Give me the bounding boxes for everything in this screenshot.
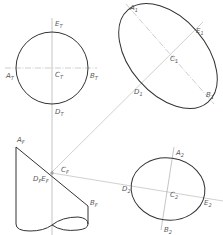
projection-diagram: ET AT CT BT DT A1 E1 C1 D1 B1 AF CF DFEF… [0,0,223,235]
label-a-f: AF [16,136,25,145]
label-c-1: C1 [170,55,178,64]
aux2-vertical-axis [161,147,174,230]
aux2-ellipse [127,153,209,225]
label-c-2: C2 [170,191,178,200]
top-view: ET AT CT BT DT [5,18,99,117]
label-e-2: E2 [204,199,212,208]
projection-line-cf-to-e2 [52,173,223,201]
label-c-f: CF [61,166,69,175]
label-c-t: CT [55,71,64,80]
label-d-1: D1 [134,88,143,97]
label-d-2: D2 [122,185,131,194]
label-b-f: BF [90,199,98,208]
label-a-t: AT [5,72,15,81]
label-b-t: BT [90,72,99,81]
label-d-t: DT [55,108,64,117]
auxiliary-view-2: A2 D2 C2 E2 B2 [122,147,212,235]
label-b-1: B1 [206,91,214,100]
label-e-1: E1 [196,27,204,36]
front-view: AF CF DFEF BF [16,115,223,235]
label-a-2: A2 [175,149,184,158]
label-b-2: B2 [164,226,172,235]
label-e-t: ET [55,20,63,29]
cylinder-base-curve [52,224,88,230]
auxiliary-view-1: A1 E1 C1 D1 B1 [52,0,223,172]
label-d-f-e-f: DFEF [33,175,49,184]
